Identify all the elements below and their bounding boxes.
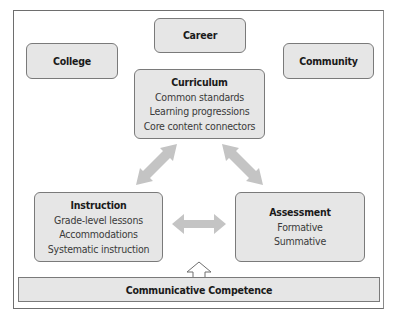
- curriculum-box: Curriculum Common standards Learning pro…: [134, 69, 265, 139]
- foundation-label: Communicative Competence: [126, 284, 273, 296]
- instruction-title: Instruction: [70, 198, 126, 213]
- assessment-item: Formative: [277, 220, 322, 235]
- assessment-box: Assessment Formative Summative: [235, 192, 365, 262]
- communicative-competence-bar: Communicative Competence: [18, 277, 380, 302]
- career-label: Career: [183, 28, 217, 43]
- double-arrow-curriculum-assessment-icon: [222, 144, 263, 185]
- college-box: College: [26, 43, 118, 79]
- curriculum-item: Core content connectors: [144, 119, 256, 134]
- instruction-item: Accommodations: [59, 227, 138, 242]
- curriculum-title: Curriculum: [171, 75, 227, 90]
- up-arrow-outline-icon: [187, 262, 211, 278]
- community-box: Community: [283, 43, 374, 79]
- curriculum-item: Common standards: [155, 90, 244, 105]
- double-arrow-curriculum-instruction-icon: [136, 144, 177, 185]
- assessment-title: Assessment: [269, 205, 331, 220]
- instruction-item: Systematic instruction: [48, 242, 150, 257]
- instruction-box: Instruction Grade-level lessons Accommod…: [34, 192, 163, 262]
- curriculum-item: Learning progressions: [150, 104, 250, 119]
- college-label: College: [53, 54, 91, 69]
- double-arrow-instruction-assessment-icon: [172, 214, 226, 234]
- career-box: Career: [154, 18, 246, 53]
- assessment-item: Summative: [274, 234, 326, 249]
- community-label: Community: [299, 54, 358, 69]
- instruction-item: Grade-level lessons: [54, 213, 143, 228]
